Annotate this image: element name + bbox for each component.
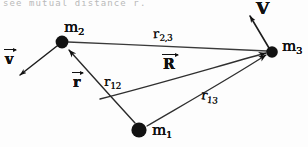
diagram-segments [20,16,269,126]
mass-point-m1 [131,122,146,137]
vector-label-R: R [163,56,175,71]
mass-label-m3-subscript: 3 [296,45,302,56]
mass-point-m2 [56,36,69,49]
vector-label-r-symbol: r [73,75,80,89]
vector-arrow-overbar-r: r [73,74,80,89]
arrow-overbar-icon [4,49,16,50]
vector-label-R-symbol: R [163,57,175,71]
vector-label-r: r [73,74,80,89]
segment-m2-m3 [68,42,267,51]
mass-label-m3-symbol: m [282,37,296,55]
mass-label-m2: m2 [64,20,84,37]
mass-label-m3: m3 [282,39,302,56]
arrow-overbar-icon [72,72,83,73]
distance-label-r23-subscript: 2,3 [159,33,172,43]
distance-label-r12-subscript: 12 [110,81,120,91]
segment-velocity-m2 [20,46,57,75]
mass-label-m1-symbol: m [152,121,166,139]
distance-label-r13: r13 [200,88,218,106]
vector-label-V-symbol: V [256,0,269,17]
vector-arrow-overbar-V: V [256,0,269,17]
vector-label-V: V [256,0,269,17]
distance-label-r13-subscript: 13 [206,95,217,106]
vector-label-v-symbol: v [5,52,13,66]
arrow-overbar-icon [162,54,178,55]
vector-arrow-overbar-R: R [163,56,175,71]
mass-point-m3 [266,46,278,58]
mass-label-m1: m1 [152,123,172,140]
distance-label-r12: r12 [104,75,121,91]
vector-label-v: v [5,51,13,66]
distance-label-r23: r2,3 [153,27,173,44]
physics-diagram-figure: see mutual distance r. [0,0,308,147]
mass-label-m2-symbol: m [64,18,78,36]
vector-arrow-overbar-v: v [5,51,13,66]
segment-velocity-m3 [250,16,269,48]
mass-label-m1-subscript: 1 [166,129,172,140]
segment-midpoint-m3 [100,53,266,99]
mass-label-m2-subscript: 2 [78,26,84,37]
